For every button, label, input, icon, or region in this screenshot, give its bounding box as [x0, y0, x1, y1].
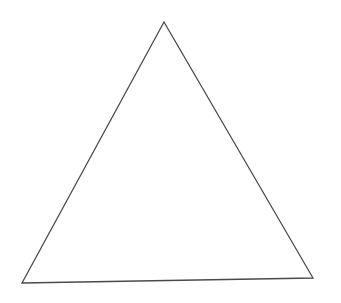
triangle-outline: [22, 22, 313, 283]
triangle-diagram: [0, 0, 341, 303]
diagram-canvas: [0, 0, 341, 303]
